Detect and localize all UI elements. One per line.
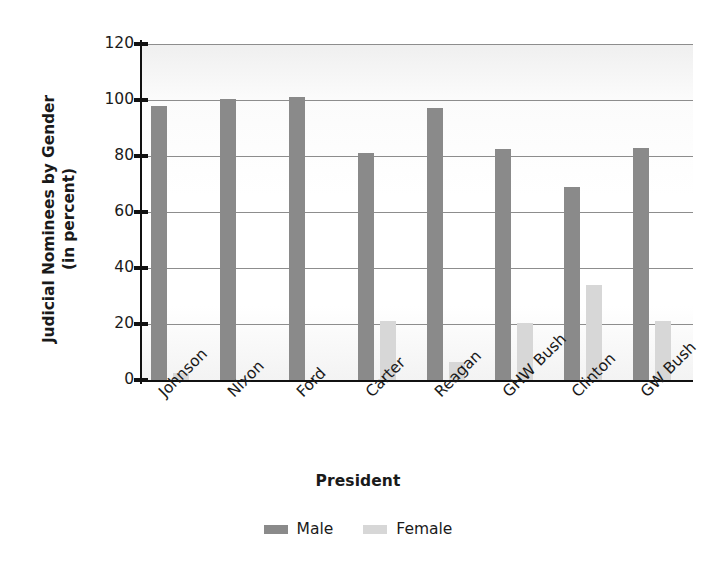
bar-chart: Judicial Nominees by Gender (in percent)… bbox=[0, 0, 716, 562]
bar-male bbox=[220, 99, 236, 380]
bar-group bbox=[486, 44, 555, 380]
legend-entry: Male bbox=[264, 520, 334, 538]
y-axis-tick-label: 120 bbox=[90, 36, 134, 52]
bar-male bbox=[151, 106, 167, 380]
bar-male bbox=[427, 108, 443, 380]
x-axis-line bbox=[137, 380, 693, 382]
y-axis-tick-mark bbox=[134, 210, 148, 214]
bar-male bbox=[358, 153, 374, 380]
y-axis-title-line-1: Judicial Nominees by Gender bbox=[40, 95, 60, 343]
bar-group bbox=[142, 44, 211, 380]
y-axis-tick-mark bbox=[134, 266, 148, 270]
bar-male bbox=[289, 97, 305, 380]
bar-group bbox=[418, 44, 487, 380]
y-axis-tick-label: 0 bbox=[90, 372, 134, 388]
y-axis-tick-label: 60 bbox=[90, 204, 134, 220]
y-axis-tick-mark bbox=[134, 378, 148, 382]
bar-group bbox=[555, 44, 624, 380]
bar-group bbox=[211, 44, 280, 380]
y-axis-tick-mark bbox=[134, 322, 148, 326]
legend-swatch-female bbox=[363, 525, 387, 534]
y-axis-tick-mark bbox=[134, 98, 148, 102]
legend-label: Male bbox=[297, 520, 334, 538]
y-axis-tick-label: 80 bbox=[90, 148, 134, 164]
legend-entry: Female bbox=[363, 520, 452, 538]
bar-male bbox=[633, 148, 649, 380]
x-axis-tick-labels: JohnsonNixonFordCarterReaganGHW BushClin… bbox=[142, 384, 693, 464]
y-axis-tick-label: 40 bbox=[90, 260, 134, 276]
y-axis-title: Judicial Nominees by Gender (in percent) bbox=[37, 54, 83, 384]
bar-male bbox=[495, 149, 511, 380]
bar-male bbox=[564, 187, 580, 380]
legend-label: Female bbox=[396, 520, 452, 538]
y-axis-tick-label: 100 bbox=[90, 92, 134, 108]
bars-layer bbox=[142, 44, 693, 380]
y-axis-tick-mark bbox=[134, 154, 148, 158]
chart-legend: MaleFemale bbox=[0, 520, 716, 538]
x-axis-title: President bbox=[0, 472, 716, 490]
bar-group bbox=[349, 44, 418, 380]
y-axis-tick-labels: 020406080100120 bbox=[90, 44, 134, 380]
y-axis-title-line-2: (in percent) bbox=[60, 168, 80, 270]
y-axis-tick-mark bbox=[134, 42, 148, 46]
bar-group bbox=[624, 44, 693, 380]
legend-swatch-male bbox=[264, 525, 288, 534]
bar-group bbox=[280, 44, 349, 380]
y-axis-tick-label: 20 bbox=[90, 316, 134, 332]
